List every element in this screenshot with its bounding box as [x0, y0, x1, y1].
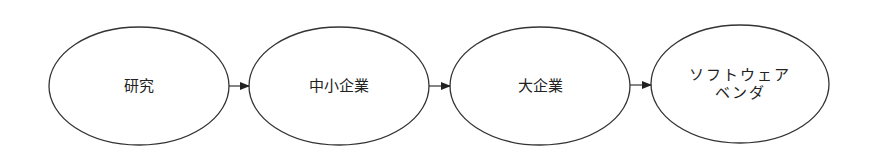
- flow-diagram: [0, 0, 876, 155]
- node-large-enterprise: [450, 27, 630, 145]
- node-software-vendor: [651, 25, 829, 143]
- node-sme: [249, 27, 429, 145]
- node-research: [49, 27, 229, 145]
